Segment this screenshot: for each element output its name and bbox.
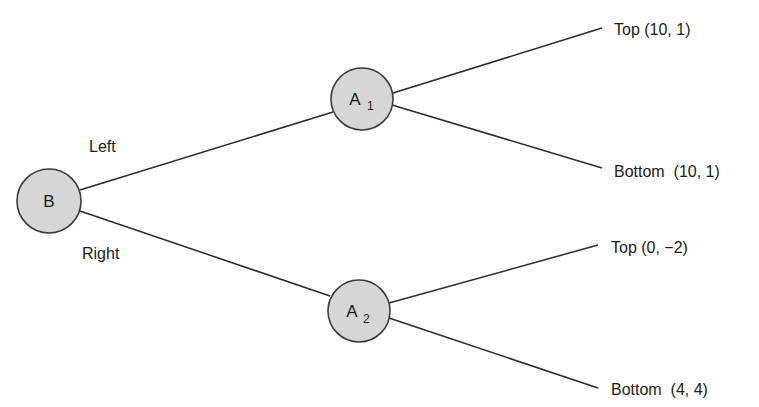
game-tree-diagram: B A 1 A 2 Left Right Top (10, 1) Bottom … [0, 0, 759, 407]
node-a1-circle [331, 68, 393, 130]
outcome-a2-bottom: Bottom (4, 4) [611, 381, 708, 398]
node-a2-label: A [346, 302, 358, 321]
outcome-a1-top: Top (10, 1) [614, 21, 690, 38]
edge-a2-top [389, 245, 598, 303]
node-a1-subscript: 1 [367, 99, 374, 113]
node-a2-letter: A [346, 302, 358, 321]
outcome-a1-bottom: Bottom (10, 1) [614, 163, 720, 180]
outcome-a2-top: Top (0, −2) [611, 239, 688, 256]
edge-a2-bottom [389, 318, 598, 388]
node-a1: A 1 [331, 68, 393, 130]
node-a2-circle [328, 280, 390, 342]
edge-a1-bottom [392, 105, 602, 168]
node-a2: A 2 [328, 280, 390, 342]
edge-a1-top [393, 28, 602, 93]
edge-left [80, 112, 333, 190]
node-a2-subscript: 2 [363, 312, 370, 326]
edge-label-left: Left [89, 138, 116, 155]
edge-label-right: Right [82, 245, 120, 262]
node-a1-letter: A [349, 90, 361, 109]
node-a1-label: A [349, 90, 361, 109]
node-root-label: B [43, 192, 54, 211]
node-root: B [17, 169, 81, 233]
